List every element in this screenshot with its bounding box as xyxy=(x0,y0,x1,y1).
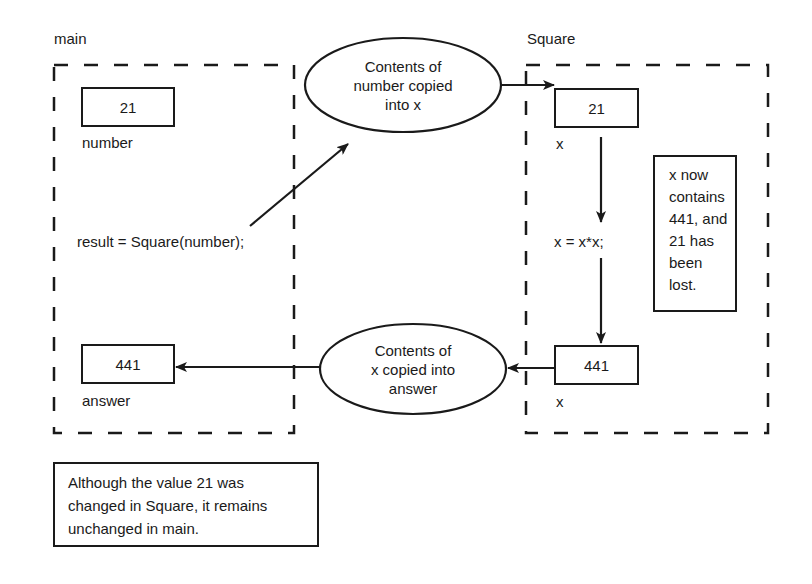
copy-in-line: into x xyxy=(385,95,421,114)
x-initial-box: 21 xyxy=(554,88,639,128)
copy-out-ellipse-text: Contents of x copied into answer xyxy=(320,324,506,414)
main-scope-label: main xyxy=(54,30,87,48)
note-line: lost. xyxy=(669,274,735,296)
number-variable-box: 21 xyxy=(81,87,175,127)
x-final-box: 441 xyxy=(554,345,639,385)
copy-in-line: number copied xyxy=(353,76,452,95)
caption-line: changed in Square, it remains xyxy=(68,494,317,517)
x-initial-label: x xyxy=(556,135,564,153)
square-scope-label: Square xyxy=(527,30,575,48)
call-arrow xyxy=(250,144,348,226)
copy-out-line: x copied into xyxy=(371,360,455,379)
square-statement: x = x*x; xyxy=(554,233,604,251)
note-line: contains xyxy=(669,186,735,208)
copy-out-line: answer xyxy=(389,379,437,398)
note-line: been xyxy=(669,252,735,274)
caption-line: unchanged in main. xyxy=(68,517,317,540)
note-line: x now xyxy=(669,164,735,186)
copy-in-line: Contents of xyxy=(365,57,442,76)
note-line: 21 has xyxy=(669,230,735,252)
note-line: 441, and xyxy=(669,208,735,230)
x-final-label: x xyxy=(556,393,564,411)
copy-in-ellipse-text: Contents of number copied into x xyxy=(305,38,501,132)
caption-line: Although the value 21 was xyxy=(68,471,317,494)
answer-variable-label: answer xyxy=(82,392,130,410)
answer-variable-box: 441 xyxy=(81,344,175,384)
x-lost-note: x now contains 441, and 21 has been lost… xyxy=(653,155,737,312)
call-statement: result = Square(number); xyxy=(77,233,244,251)
copy-out-line: Contents of xyxy=(375,341,452,360)
number-variable-label: number xyxy=(82,134,133,152)
caption-box: Although the value 21 was changed in Squ… xyxy=(53,462,319,547)
